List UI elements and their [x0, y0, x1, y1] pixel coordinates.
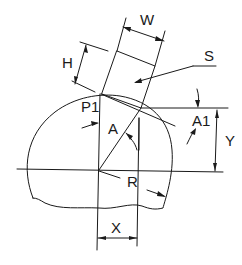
a-arrow-left-head — [91, 121, 99, 126]
radius-line-a — [99, 108, 141, 170]
s-leader-diagonal — [136, 66, 193, 82]
horizontal-centerline — [17, 169, 223, 172]
label-s: S — [204, 47, 214, 64]
y-dimension-line — [215, 110, 217, 171]
w-arrow-left — [123, 27, 131, 32]
label-y: Y — [225, 132, 235, 149]
label-w: W — [140, 11, 155, 28]
label-p1: P1 — [81, 98, 99, 115]
w-extension-right — [155, 31, 165, 66]
r-arrowhead — [157, 191, 166, 197]
label-a: A — [108, 120, 118, 137]
tool-body-s — [102, 51, 155, 108]
w-extension-left — [117, 18, 126, 51]
label-h: H — [62, 54, 73, 71]
a-arrow-right-head — [126, 133, 133, 140]
label-a1: A1 — [192, 112, 210, 129]
s-arrowhead — [134, 78, 142, 83]
label-x: X — [111, 219, 121, 236]
radius-line-r — [99, 171, 120, 178]
y-arrow-top — [215, 110, 219, 118]
label-r: R — [127, 173, 138, 190]
vertical-centerline — [97, 94, 100, 250]
a1-arrow-top — [195, 100, 200, 108]
x-arrow-right — [129, 236, 137, 240]
engagement-diagram: W H S P1 A A1 Y R X — [0, 0, 242, 265]
a1-arrow-bottom — [190, 128, 196, 135]
y-arrow-bottom — [213, 163, 217, 171]
x-arrow-left — [98, 236, 106, 240]
